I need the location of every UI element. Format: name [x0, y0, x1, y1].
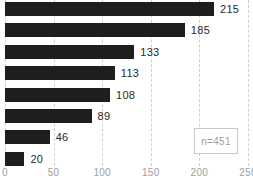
x-tick-label: 250	[239, 167, 253, 178]
bar	[5, 109, 92, 123]
bar-value-label: 113	[121, 66, 139, 80]
bar	[5, 23, 185, 37]
bar	[5, 152, 24, 166]
x-tick-label: 200	[191, 167, 209, 178]
bar	[5, 45, 134, 59]
bar-value-label: 133	[140, 45, 159, 59]
sample-size-badge: n=451	[194, 128, 238, 154]
x-tick-label: 0	[2, 167, 8, 178]
x-tick-label: 50	[48, 167, 60, 178]
gridline	[248, 0, 249, 166]
x-axis: 050100150200250	[0, 167, 253, 183]
bar	[5, 130, 50, 144]
bar-value-label: 20	[30, 152, 43, 166]
x-tick-label: 100	[93, 167, 111, 178]
bar-value-label: 215	[220, 2, 239, 16]
bar-value-label: 108	[116, 88, 135, 102]
bar-value-label: 46	[56, 130, 69, 144]
sample-size-label: n=451	[201, 136, 231, 147]
bar	[5, 2, 214, 16]
bar-chart: 215185133113108894620 050100150200250 n=…	[0, 0, 253, 191]
x-tick-label: 150	[142, 167, 160, 178]
bar-value-label: 185	[191, 23, 210, 37]
bar	[5, 66, 115, 80]
bar-value-label: 89	[98, 109, 111, 123]
bar	[5, 88, 110, 102]
